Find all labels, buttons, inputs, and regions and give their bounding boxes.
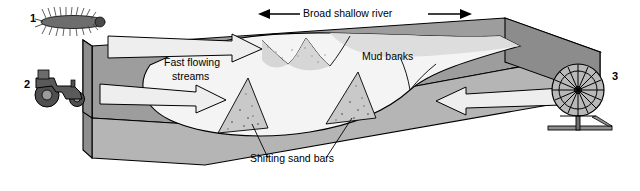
diagram-canvas: 1 2 3 Broad shallow river Mud banks Fast… — [0, 0, 640, 191]
label-mud-banks: Mud banks — [362, 50, 413, 62]
caterpillar-bristly-larva — [35, 7, 105, 36]
water-wheel — [548, 64, 612, 130]
land-left-top — [83, 40, 92, 118]
callout-number-3: 3 — [612, 70, 618, 83]
arrow-left-icon — [258, 9, 270, 19]
callout-number-2: 2 — [24, 78, 30, 91]
tractor-silhouette — [35, 70, 85, 107]
label-broad-shallow-river: Broad shallow river — [303, 7, 392, 19]
label-shifting-sand-bars: Shifting sand bars — [250, 152, 334, 164]
label-streams: streams — [172, 70, 209, 82]
arrow-right-icon — [460, 9, 472, 19]
label-fast-flowing: Fast flowing — [164, 56, 220, 68]
callout-number-1: 1 — [30, 12, 36, 25]
